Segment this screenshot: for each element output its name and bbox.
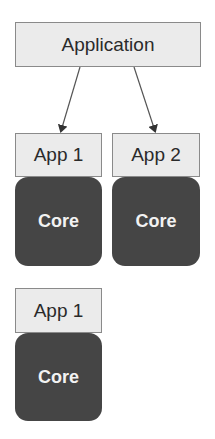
- arrow-application-to-app2: [134, 67, 155, 131]
- app1-label-bottom: App 1: [34, 300, 84, 322]
- arrow-application-to-app1: [61, 67, 80, 131]
- app1-box-bottom: App 1: [15, 288, 102, 333]
- core-box-app1-top: Core: [15, 177, 102, 266]
- application-box: Application: [15, 22, 201, 67]
- core-box-app1-bottom: Core: [15, 333, 102, 421]
- app1-label-top: App 1: [34, 144, 84, 166]
- application-label: Application: [62, 34, 155, 56]
- core-label: Core: [38, 211, 79, 232]
- app2-label-top: App 2: [131, 144, 181, 166]
- app2-box-top: App 2: [112, 133, 200, 177]
- core-label: Core: [38, 367, 79, 388]
- core-label: Core: [135, 211, 176, 232]
- core-box-app2-top: Core: [112, 177, 200, 266]
- app1-box-top: App 1: [15, 133, 102, 177]
